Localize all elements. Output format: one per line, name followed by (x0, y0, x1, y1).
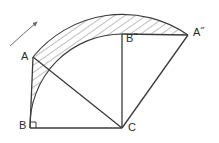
vertex-label-C: C (128, 122, 136, 133)
segment-CA (33, 57, 122, 128)
vertex-label-A: A (21, 51, 28, 62)
vertex-label-B: B (19, 120, 26, 131)
segment-C-A-image (122, 35, 188, 128)
vertex-label-B-image: B˝ (126, 33, 137, 44)
geometry-figure-canvas: A B C A˝ B˝ (0, 0, 219, 143)
right-angle-marker-icon (30, 122, 36, 128)
rotation-arrow-icon (10, 23, 36, 46)
vertex-label-A-image: A˝ (193, 27, 204, 38)
figure-svg (0, 0, 219, 143)
swept-region-hatched (30, 14, 188, 128)
